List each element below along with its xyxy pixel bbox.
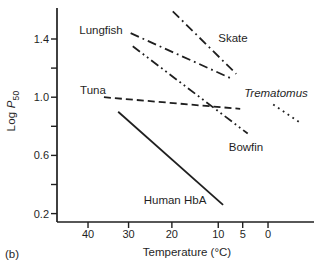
y-tick-label-1.4: 1.4: [34, 33, 49, 45]
x-tick-label-0: 0: [265, 228, 271, 240]
series-label-bowfin: Bowfin: [229, 141, 264, 153]
series-label-human-hba: Human HbA: [144, 194, 207, 206]
y-axis-title-prefix: Log: [5, 108, 17, 131]
series-label-trematomus: Trematomus: [244, 87, 308, 99]
series-line-lungfish: [131, 33, 231, 78]
x-tick-label-30: 30: [122, 228, 134, 240]
x-tick-label-40: 40: [82, 228, 94, 240]
panel-label: (b): [5, 248, 19, 260]
y-tick-label-0.2: 0.2: [34, 208, 49, 220]
x-tick-label-20: 20: [166, 228, 178, 240]
series-label-lungfish: Lungfish: [79, 24, 122, 36]
series-line-human-hba: [118, 112, 223, 205]
x-axis-title: Temperature (°C): [143, 246, 231, 258]
y-axis-title: Log P50: [5, 91, 20, 132]
series-label-tuna: Tuna: [80, 84, 106, 96]
y-axis-title-symbol: P: [5, 100, 17, 108]
series-line-tuna: [104, 97, 240, 109]
y-tick-label-0.6: 0.6: [34, 149, 49, 161]
x-tick-label-10: 10: [212, 228, 224, 240]
y-axis-title-subscript: 50: [11, 91, 21, 101]
series-label-skate: Skate: [218, 32, 247, 44]
y-tick-label-1: 1.0: [34, 91, 49, 103]
figure-panel: Log P50 Temperature (°C) (b) 1.41.00.60.…: [0, 0, 325, 271]
x-tick-label-5: 5: [240, 228, 246, 240]
series-line-trematomus: [273, 104, 301, 123]
